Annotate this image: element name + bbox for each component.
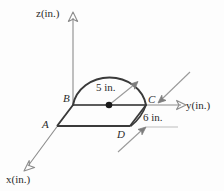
z-axis-label: z(in.) bbox=[36, 8, 60, 19]
center-point-dot bbox=[106, 102, 113, 109]
engineering-diagram-figure: z(in.) y(in.) x(in.) A B C D 5 in. 6 in. bbox=[0, 0, 224, 191]
point-label-c: C bbox=[148, 94, 155, 105]
point-label-a: A bbox=[42, 119, 49, 130]
leader-line-c bbox=[162, 72, 190, 99]
x-axis-label: x(in.) bbox=[6, 174, 30, 185]
point-label-b: B bbox=[63, 93, 70, 104]
base-edge-ba bbox=[57, 105, 73, 126]
x-axis-arrowhead bbox=[24, 161, 35, 171]
diagram-canvas bbox=[0, 0, 224, 191]
parallelogram-base-group bbox=[57, 105, 146, 126]
leader-line-d-group bbox=[118, 127, 178, 152]
radius-dimension-label: 5 in. bbox=[96, 82, 116, 93]
leader-arrowhead-d bbox=[138, 127, 146, 135]
depth-dimension-label: 6 in. bbox=[143, 112, 163, 123]
point-label-d: D bbox=[117, 129, 125, 140]
y-axis-label: y(in.) bbox=[186, 100, 210, 111]
